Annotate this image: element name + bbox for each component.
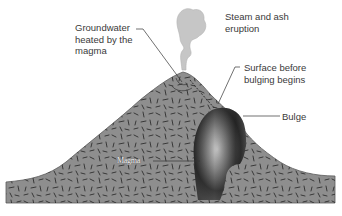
steam-label: Steam and ash eruption [225,11,289,34]
bulge-label: Bulge [282,111,306,123]
groundwater-label: Groundwater heated by the magma [75,22,133,57]
surface-leader [218,67,240,104]
volcano-diagram [0,0,342,216]
magma-label: Magma [117,156,140,165]
groundwater-leader [136,29,182,82]
steam-plume [177,9,206,70]
surface-label: Surface before bulging begins [244,62,306,85]
